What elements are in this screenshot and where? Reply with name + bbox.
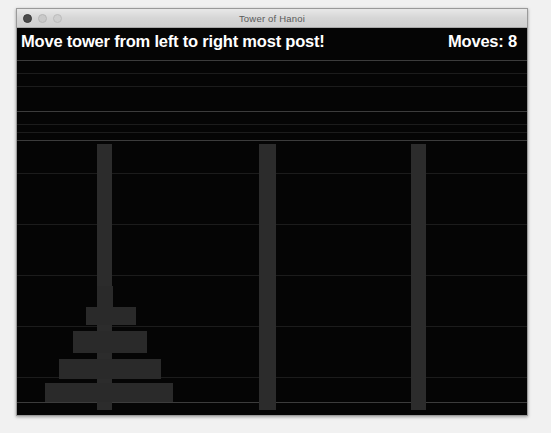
disc-2[interactable]: [86, 307, 136, 325]
scanline-artifact: [17, 73, 527, 74]
window-titlebar[interactable]: Tower of Hanoi: [17, 9, 527, 28]
scanline-artifact: [17, 124, 527, 125]
disc-1[interactable]: [97, 286, 113, 307]
window-controls: [23, 9, 62, 28]
window-title: Tower of Hanoi: [17, 9, 527, 28]
scanline-artifact: [17, 140, 527, 141]
disc-5[interactable]: [45, 383, 173, 402]
scanline-artifact: [17, 111, 527, 112]
instruction-text: Move tower from left to right most post!: [21, 32, 325, 51]
tower-of-hanoi-window: Tower of Hanoi Move tower from left to r…: [16, 8, 528, 416]
maximize-button[interactable]: [53, 14, 62, 23]
middle-post[interactable]: [259, 144, 276, 410]
scanline-artifact: [17, 86, 527, 87]
moves-counter: Moves: 8: [448, 32, 517, 51]
game-canvas[interactable]: Move tower from left to right most post!…: [17, 28, 527, 416]
disc-3[interactable]: [73, 331, 147, 353]
close-button[interactable]: [23, 14, 32, 23]
disc-4[interactable]: [59, 359, 161, 379]
desktop-background: Tower of Hanoi Move tower from left to r…: [0, 0, 551, 433]
scanline-artifact: [17, 60, 527, 61]
hud-bar: Move tower from left to right most post!…: [17, 28, 527, 54]
minimize-button[interactable]: [38, 14, 47, 23]
right-post[interactable]: [411, 144, 426, 410]
scanline-artifact: [17, 132, 527, 133]
